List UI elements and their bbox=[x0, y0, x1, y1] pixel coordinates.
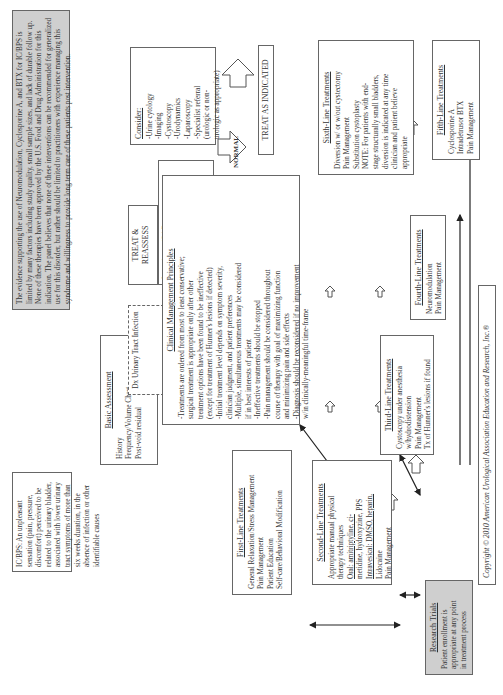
first-line-box: First-Line Treatments General Relaxation… bbox=[232, 450, 292, 595]
consider-item: -Urine cytology bbox=[146, 53, 156, 139]
treat-reassess-label: TREAT & REASSESS bbox=[128, 205, 158, 285]
definition-text: IC/BPS: An unpleasant sensation (pain, p… bbox=[16, 482, 101, 567]
second-line-item: Pain Management bbox=[385, 466, 395, 579]
fifth-line-title: Fifth-Line Treatments bbox=[436, 46, 446, 154]
principle-item: -Diagnosis should be reconsidered if no … bbox=[293, 181, 303, 419]
fifth-line-item: Cyclosporine A bbox=[448, 46, 458, 154]
sixth-line-item: diversion is indicated at any time bbox=[382, 46, 392, 169]
principle-item: and minimizing pain and side effects bbox=[283, 181, 293, 419]
research-trials-item: Patient enrollment is bbox=[441, 586, 451, 669]
flowchart-canvas: The evidence supporting the use of Neuro… bbox=[0, 0, 503, 695]
block-arrow-complicated-to-signs bbox=[325, 286, 335, 297]
sixth-line-box: Sixth-Line Treatments Diversion w/ or w/… bbox=[318, 40, 414, 175]
block-arrow-into-complicated bbox=[325, 401, 335, 412]
principle-item: if in best interests of patient bbox=[245, 181, 255, 419]
principle-item: surgical treatment is appropriate only a… bbox=[187, 181, 197, 419]
third-line-title: Third-Line Treatments bbox=[384, 341, 394, 449]
second-line-item: Oral: amitriptyline, ci- bbox=[347, 466, 357, 579]
research-trials-box: Research Trials Patient enrollment is ap… bbox=[425, 580, 473, 675]
evidence-note: The evidence supporting the use of Neuro… bbox=[12, 10, 70, 310]
sixth-line-item: clinician and patient believe bbox=[391, 46, 401, 169]
second-line-title: Second-Line Treatments bbox=[316, 466, 326, 579]
principles-title: Clinical Management Principles bbox=[166, 181, 176, 419]
fourth-line-box: Fourth-Line Treatments Neuromodulation P… bbox=[410, 215, 446, 320]
normal-label: NORMAL bbox=[232, 136, 240, 168]
consider-item: -Cystoscopy bbox=[165, 53, 175, 139]
block-arrow-consider-to-treat bbox=[222, 59, 254, 87]
principle-item: -Treatments are ordered from most to lea… bbox=[178, 181, 188, 419]
evidence-note-text: The evidence supporting the use of Neuro… bbox=[16, 18, 72, 304]
principle-item: -Pain management should be considered th… bbox=[264, 181, 274, 419]
dx-uti-text: Dx Urinary Tract Infection bbox=[132, 311, 140, 388]
second-line-item: Appropriate manual physical bbox=[328, 466, 338, 579]
sixth-line-item: Diversion w/ or w/out cystectomy bbox=[334, 46, 344, 169]
fifth-line-box: Fifth-Line Treatments Cyclosporine A Int… bbox=[432, 40, 480, 160]
first-line-item: Self-care/Behavioral Modification bbox=[276, 456, 286, 589]
principle-item: course of therapy with goal of maximizin… bbox=[274, 181, 284, 419]
consider-item: -Specialist referral bbox=[194, 53, 204, 139]
treat-as-indicated-label: TREAT AS INDICATED bbox=[258, 45, 274, 155]
consider-item: (urologic or non- bbox=[203, 53, 213, 139]
treat-reassess-text: TREAT & REASSESS bbox=[131, 226, 150, 265]
dx-uti-box: Dx Urinary Tract Infection bbox=[128, 305, 164, 395]
fifth-line-item: Pain Management bbox=[467, 46, 477, 154]
basic-assessment-item: History bbox=[116, 341, 126, 459]
principle-item: clinician judgment, and patient preferen… bbox=[226, 181, 236, 419]
second-line-item: Intravesical: DMSO, heparin, bbox=[366, 466, 376, 579]
sixth-line-item: NOTE: For patients with end- bbox=[362, 46, 372, 169]
principles-box: Clinical Management Principles -Treatmen… bbox=[162, 175, 300, 425]
first-line-title: First-Line Treatments bbox=[236, 456, 246, 589]
fourth-line-title: Fourth-Line Treatments bbox=[414, 221, 424, 314]
consider-item: -Imaging bbox=[155, 53, 165, 139]
second-line-item: metidine, hydroxyzine, PPS bbox=[356, 466, 366, 579]
sixth-line-item: Pain Management bbox=[343, 46, 353, 169]
sixth-line-item: stage structurally small bladders, bbox=[372, 46, 382, 169]
consider-title: Consider: bbox=[134, 53, 144, 139]
sixth-line-item: appropriate bbox=[401, 46, 411, 169]
principle-item: -Initial treatment level depends on symp… bbox=[216, 181, 226, 419]
basic-assessment-title: Basic Assessment bbox=[104, 341, 114, 459]
fifth-line-item: Intradetrusor BTX bbox=[457, 46, 467, 154]
research-trials-item: in treatment process bbox=[460, 586, 470, 669]
principle-item: w/in clinically-meaningful time-frame bbox=[302, 181, 312, 419]
fourth-line-item: Pain Management bbox=[435, 221, 445, 314]
treat-as-indicated-text: TREAT AS INDICATED bbox=[261, 59, 270, 140]
first-line-item: Pain Management bbox=[257, 456, 267, 589]
sixth-line-title: Sixth-Line Treatments bbox=[322, 46, 332, 169]
consider-box: Consider: -Urine cytology -Imaging -Cyst… bbox=[130, 47, 216, 145]
consider-item: -Urodynamics bbox=[174, 53, 184, 139]
sixth-line-item: Substitution cystoplasty bbox=[353, 46, 363, 169]
block-arrow-definition-to-assessment bbox=[408, 455, 424, 473]
third-line-item: Tx of Hunner's lesions if found bbox=[424, 341, 434, 449]
principle-item: (except for treatment of Hunner's lesion… bbox=[206, 181, 216, 419]
research-trials-title: Research Trials bbox=[429, 586, 439, 669]
third-line-item: Cystoscopy under anesthesia bbox=[396, 341, 406, 449]
third-line-item: w/hydrodistension bbox=[405, 341, 415, 449]
block-arrow-dx-to-treat bbox=[375, 286, 385, 297]
copyright-notice: Copyright © 2010 American Urological Ass… bbox=[478, 285, 496, 585]
principle-item: -Multiple, simultaneous treatments may b… bbox=[235, 181, 245, 419]
principle-item: -Ineffective treatments should be stoppe… bbox=[254, 181, 264, 419]
first-line-item: Patient Education bbox=[267, 456, 277, 589]
second-line-item: Lidocaine bbox=[376, 466, 386, 579]
principle-item: treatment options have been found to be … bbox=[197, 181, 207, 419]
copyright-text: Copyright © 2010 American Urological Ass… bbox=[482, 325, 491, 578]
research-trials-item: appropriate at any point bbox=[450, 586, 460, 669]
third-line-item: Pain Management bbox=[415, 341, 425, 449]
first-line-item: General Relaxation/Stress Management bbox=[248, 456, 258, 589]
definition-box: IC/BPS: An unpleasant sensation (pain, p… bbox=[12, 472, 72, 572]
consider-item: urologic as appropriate) bbox=[213, 53, 223, 139]
consider-item: -Laparoscopy bbox=[184, 53, 194, 139]
second-line-item: therapy techniques bbox=[337, 466, 347, 579]
fourth-line-item: Neuromodulation bbox=[426, 221, 436, 314]
second-line-box: Second-Line Treatments Appropriate manua… bbox=[312, 460, 392, 585]
third-line-box: Third-Line Treatments Cystoscopy under a… bbox=[380, 335, 434, 455]
